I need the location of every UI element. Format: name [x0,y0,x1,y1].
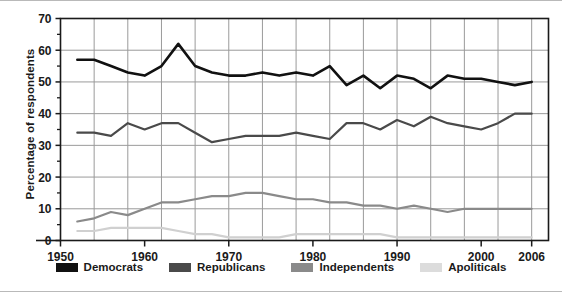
series-line-independents [77,193,531,222]
legend-label: Republicans [197,261,265,273]
y-tick-label: 50 [38,75,52,89]
legend-label: Democrats [84,261,143,273]
series-line-apoliticals [77,228,531,238]
legend-swatch-icon [420,263,442,272]
y-tick-label: 10 [38,202,52,216]
y-tick-label: 40 [38,107,52,121]
legend-item-democrats: Democrats [56,261,143,273]
y-tick-label: 20 [38,171,52,185]
legend-label: Independents [319,261,394,273]
legend-swatch-icon [169,263,191,272]
y-tick-label: 30 [38,139,52,153]
legend-swatch-icon [56,263,78,272]
legend-label: Apoliticals [448,261,506,273]
chart-figure: Percentage of respondents 01020304050607… [0,0,562,292]
legend-item-apoliticals: Apoliticals [420,261,506,273]
legend-item-republicans: Republicans [169,261,265,273]
chart-legend: DemocratsRepublicansIndependentsApolitic… [0,261,562,273]
series-line-republicans [77,114,531,143]
y-tick-label: 70 [38,12,52,26]
legend-item-independents: Independents [291,261,394,273]
y-tick-label: 60 [38,44,52,58]
legend-swatch-icon [291,263,313,272]
line-chart-plot: 0102030405060701950196019701980199020002… [0,0,562,292]
